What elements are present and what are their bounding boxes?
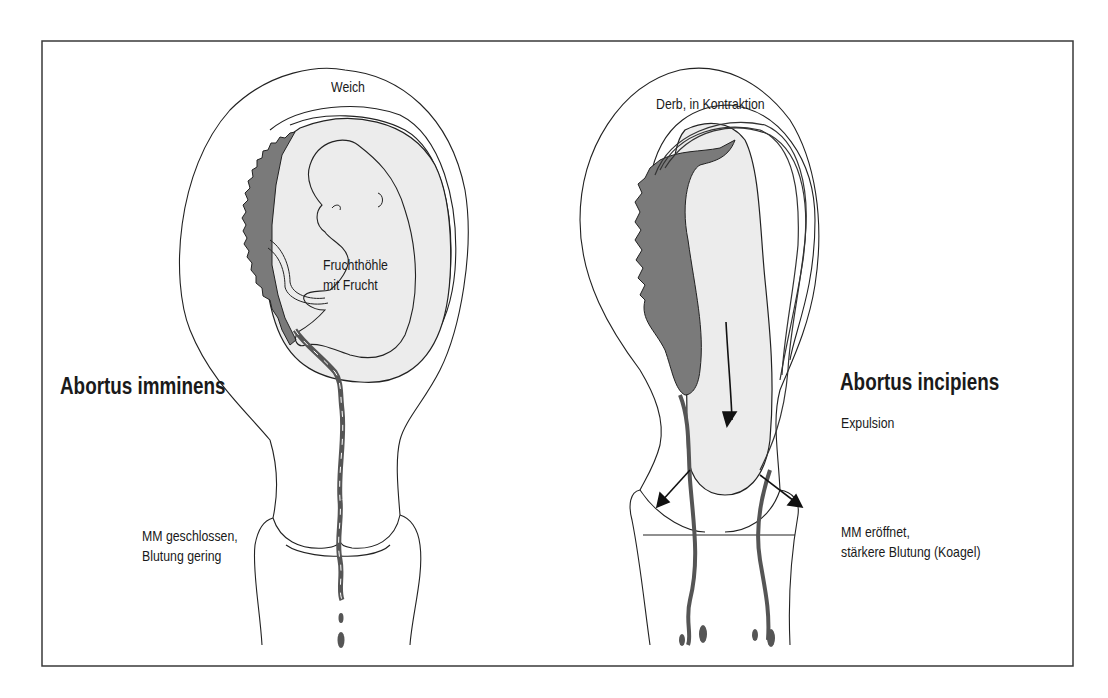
left-top-label: Weich [331, 78, 365, 95]
illustration [0, 0, 1108, 698]
left-inner-label-2: mit Frucht [323, 276, 378, 293]
right-cervix-label-1: MM eröffnet, [841, 523, 910, 540]
right-cervix-label-2: stärkere Blutung (Koagel) [841, 543, 980, 560]
right-top-label: Derb, in Kontraktion [656, 95, 765, 112]
left-inner-label-1: Fruchthöhle [323, 256, 388, 273]
right-title: Abortus incipiens [840, 369, 999, 396]
left-cervix-label-2: Blutung gering [142, 547, 221, 564]
left-title: Abortus imminens [60, 373, 226, 400]
right-subtitle: Expulsion [841, 414, 894, 431]
left-cervix-label-1: MM geschlossen, [142, 527, 238, 544]
